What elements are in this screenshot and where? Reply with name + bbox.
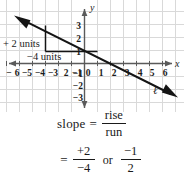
slope-figure: 3 2 1 −1 −2 −3 − 6 −5 −4 −3 2 −1 0 1 2 3… [0, 0, 184, 189]
slope-formula-line-2: = +2 −4 or −1 2 [0, 144, 184, 175]
x-tick-neg6: − [6, 68, 11, 78]
fraction-denominator: −4 [74, 161, 93, 175]
x-tick-neg6-num: 6 [15, 68, 20, 78]
rise-label: + 2 units [3, 38, 40, 49]
equals-sign-1: = [90, 116, 97, 132]
signed-fraction: +2 −4 [73, 144, 95, 175]
simplified-denominator: 2 [125, 161, 137, 175]
x-tick-neg5: −5 [22, 68, 32, 78]
x-tick-5: 5 [150, 68, 155, 78]
y-tick-labels: 3 2 1 −1 −2 −3 [73, 21, 83, 103]
y-axis-label: y [89, 2, 95, 13]
fraction-bar-3 [121, 159, 141, 160]
x-tick-neg1: −1 [72, 68, 82, 78]
simplified-fraction: −1 2 [121, 144, 141, 175]
y-tick-2: 2 [76, 34, 81, 44]
x-tick-4: 4 [138, 68, 143, 78]
line-name-label: ℓ [153, 84, 158, 96]
fraction-bar-2 [73, 159, 95, 160]
run-label: −4 units [27, 51, 61, 62]
x-tick-3: 3 [125, 68, 130, 78]
x-tick-neg2: 2 [64, 68, 69, 78]
slope-word: slope [57, 116, 85, 132]
y-tick-neg2: −2 [73, 81, 83, 91]
x-tick-2: 2 [112, 68, 117, 78]
x-tick-6: 6 [163, 68, 168, 78]
simplified-numerator: −1 [121, 144, 140, 158]
fraction-numerator: +2 [74, 144, 93, 158]
rise-word: rise [102, 108, 126, 122]
y-tick-neg3: −3 [73, 93, 83, 103]
equals-sign-2: = [60, 152, 67, 168]
x-tick-1: 1 [99, 68, 104, 78]
slope-formula-line-1: slope = rise run [0, 108, 184, 139]
x-axis-label: x [174, 58, 180, 69]
fraction-bar-1 [102, 123, 126, 124]
rise-over-run-fraction: rise run [102, 108, 126, 139]
coordinate-graph: 3 2 1 −1 −2 −3 − 6 −5 −4 −3 2 −1 0 1 2 3… [0, 0, 184, 112]
x-tick-neg4: −4 [35, 68, 45, 78]
x-tick-neg3: −3 [48, 68, 58, 78]
run-word: run [103, 125, 126, 139]
slope-formula: slope = rise run = +2 −4 or −1 2 [0, 108, 184, 189]
y-tick-1: 1 [76, 47, 81, 57]
or-word: or [103, 151, 113, 168]
x-tick-0: 0 [86, 68, 91, 78]
y-tick-3: 3 [76, 21, 81, 31]
